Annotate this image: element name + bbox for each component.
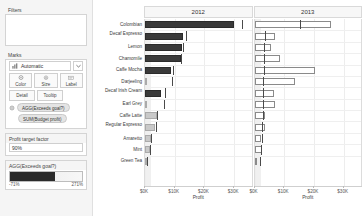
row-header-label[interactable]: Caffe Mocha bbox=[116, 67, 142, 72]
bar-mark[interactable] bbox=[145, 78, 147, 85]
bar-mark[interactable] bbox=[255, 90, 275, 97]
bar-mark[interactable] bbox=[255, 55, 281, 62]
row-separator bbox=[145, 65, 252, 66]
bar-mark[interactable] bbox=[145, 90, 161, 97]
row-separator bbox=[145, 76, 252, 77]
filters-shelf[interactable]: Filters bbox=[5, 5, 87, 46]
reference-line bbox=[264, 54, 265, 63]
bar-mark[interactable] bbox=[255, 158, 257, 165]
mark-type-selector[interactable]: Automatic bbox=[9, 61, 71, 71]
axis-tick-mark bbox=[233, 186, 234, 188]
bar-mark[interactable] bbox=[145, 135, 151, 142]
marks-shelf: Marks Automatic bbox=[5, 50, 87, 129]
reference-line bbox=[263, 111, 264, 120]
bar-mark[interactable] bbox=[145, 112, 157, 119]
reference-line bbox=[263, 100, 264, 109]
axis-tick-label: $30K bbox=[337, 189, 348, 194]
gridline bbox=[234, 19, 235, 186]
parameter-card: Profit target factor 90% bbox=[5, 133, 87, 156]
axis-tick-mark bbox=[174, 186, 175, 188]
bar-mark[interactable] bbox=[145, 33, 183, 40]
row-headers: ColombianDecaf EspressoLemonChamomileCaf… bbox=[93, 19, 144, 186]
row-separator bbox=[255, 156, 362, 157]
x-axis-title: Profit bbox=[254, 195, 363, 200]
legend-gradient[interactable] bbox=[9, 171, 83, 182]
label-button[interactable]: Label bbox=[60, 73, 83, 88]
column-header-2013[interactable]: 2013 bbox=[254, 6, 363, 18]
bar-mark[interactable] bbox=[255, 101, 276, 108]
reference-line bbox=[173, 66, 174, 75]
row-header-label[interactable]: Regular Espresso bbox=[96, 122, 142, 127]
x-axis: Profit $0K$10K$20K$30K Profit $0K$10K$20… bbox=[144, 186, 363, 216]
axis-tick-label: $10K bbox=[278, 189, 289, 194]
row-header-label[interactable]: Earl Grey bbox=[123, 101, 142, 106]
row-header-label[interactable]: Green Tea bbox=[121, 158, 142, 163]
legend-range: -71% 271% bbox=[9, 182, 83, 187]
pill-exceeds-goal[interactable]: AGG(Exceeds goal?) bbox=[17, 103, 70, 112]
size-button[interactable]: Size bbox=[34, 73, 57, 88]
bar-mark[interactable] bbox=[145, 44, 182, 51]
row-header-label[interactable]: Chamomile bbox=[119, 56, 142, 61]
bar-mark[interactable] bbox=[145, 146, 150, 153]
reference-line bbox=[263, 88, 264, 97]
row-separator bbox=[255, 144, 362, 145]
reference-line bbox=[260, 157, 261, 166]
marks-title: Marks bbox=[5, 50, 87, 59]
panel-2012[interactable] bbox=[144, 19, 253, 186]
bar-mark[interactable] bbox=[255, 124, 266, 131]
row-separator bbox=[255, 30, 362, 31]
chevron-down-icon[interactable] bbox=[73, 61, 83, 71]
bar-mark[interactable] bbox=[145, 21, 234, 28]
row-header-label[interactable]: Darjeeling bbox=[121, 79, 142, 84]
row-separator bbox=[145, 99, 252, 100]
row-header-label[interactable]: Lemon bbox=[128, 44, 142, 49]
column-header-2012[interactable]: 2012 bbox=[144, 6, 253, 18]
row-header-label[interactable]: Colombian bbox=[120, 22, 142, 27]
tooltip-button[interactable]: Tooltip bbox=[37, 90, 63, 101]
axis-tick-label: $20K bbox=[198, 189, 209, 194]
legend-card: AGG(Exceeds goal?) -71% 271% bbox=[5, 160, 87, 190]
sidebar: Filters Marks Automatic bbox=[0, 0, 92, 216]
bar-mark[interactable] bbox=[145, 124, 155, 131]
row-header-label[interactable]: Mint bbox=[133, 147, 142, 152]
pill-budget-profit[interactable]: SUM(Budget profit) bbox=[18, 114, 67, 123]
chart-view: 2012 2013 ColombianDecaf EspressoLemonCh… bbox=[92, 0, 363, 216]
row-separator bbox=[145, 133, 252, 134]
row-header-label[interactable]: Decaf Espresso bbox=[96, 31, 142, 36]
legend-max-label: 271% bbox=[71, 182, 83, 187]
reference-line bbox=[183, 43, 184, 52]
axis-tick-label: $10K bbox=[168, 189, 179, 194]
x-axis-title: Profit bbox=[144, 195, 253, 200]
row-separator bbox=[255, 87, 362, 88]
bar-mark[interactable] bbox=[145, 67, 171, 74]
bar-mark[interactable] bbox=[255, 78, 295, 85]
bar-mark[interactable] bbox=[255, 21, 331, 28]
bar-chart-icon bbox=[12, 63, 18, 69]
axis-tick-label: $20K bbox=[308, 189, 319, 194]
row-header-label[interactable]: Caffe Latte bbox=[120, 113, 142, 118]
color-button[interactable]: Color bbox=[9, 73, 32, 88]
bar-mark[interactable] bbox=[145, 55, 181, 62]
axis-tick-mark bbox=[203, 186, 204, 188]
row-header-label[interactable]: Decaf Irish Cream bbox=[96, 88, 142, 93]
detail-button[interactable]: Detail bbox=[9, 90, 35, 101]
panel-2013[interactable] bbox=[254, 19, 363, 186]
reference-line bbox=[186, 31, 187, 40]
mark-type-label: Automatic bbox=[21, 63, 43, 69]
bar-mark[interactable] bbox=[145, 101, 147, 108]
reference-line bbox=[264, 43, 265, 52]
marks-pill-row-detail[interactable]: SUM(Budget profit) bbox=[9, 114, 83, 123]
row-separator bbox=[145, 30, 252, 31]
filters-body[interactable] bbox=[6, 15, 86, 45]
parameter-value-input[interactable]: 90% bbox=[9, 143, 83, 152]
filters-dropzone[interactable] bbox=[5, 14, 87, 46]
color-legend: AGG(Exceeds goal?) -71% 271% bbox=[5, 160, 87, 190]
reference-line bbox=[147, 157, 148, 166]
axis-tick-mark bbox=[144, 186, 145, 188]
x-axis-2013: Profit $0K$10K$20K$30K bbox=[254, 186, 363, 216]
bar-mark[interactable] bbox=[255, 135, 262, 142]
marks-pill-row-color[interactable]: AGG(Exceeds goal?) bbox=[9, 103, 83, 112]
bar-mark[interactable] bbox=[255, 44, 271, 51]
row-header-label[interactable]: Amaretto bbox=[123, 136, 142, 141]
mark-type-row[interactable]: Automatic bbox=[9, 61, 83, 71]
